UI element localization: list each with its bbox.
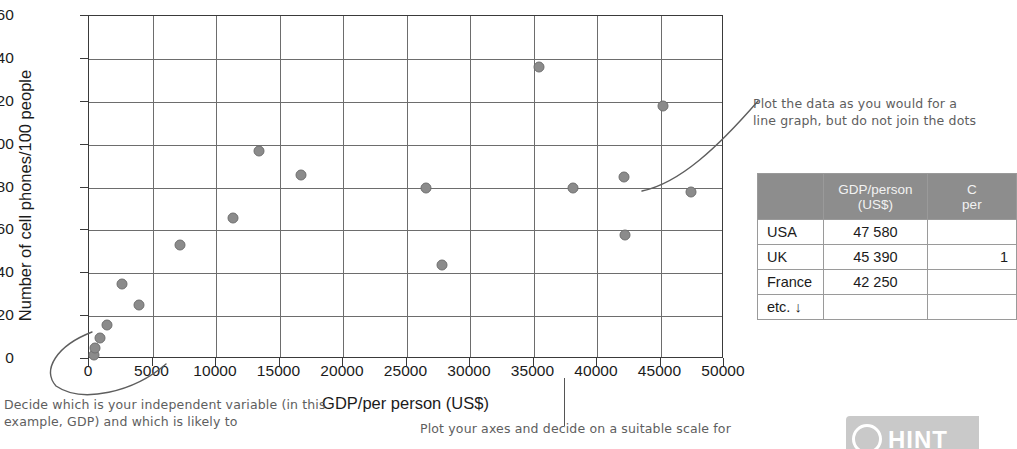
gridline-vertical [661,16,662,357]
annotation-independent-variable: Decide which is your independent variabl… [4,396,334,430]
gridline-vertical [153,16,154,357]
table-header-blank [758,174,824,220]
y-tick-label: 80 [0,179,14,195]
y-tick-label: 60 [0,222,14,238]
data-point [90,343,101,354]
table-cell-gdp: 45 390 [823,245,927,270]
x-tick-mark [469,358,470,366]
table-cell-country: etc. ↓ [758,295,824,320]
table-cell-country: France [758,270,824,295]
y-tick-label: 100 [0,136,14,152]
gridline-vertical [407,16,408,357]
y-tick-label: 20 [0,307,14,323]
table-cell-country: UK [758,245,824,270]
data-point [227,212,238,223]
y-tick-mark [80,15,88,16]
table-cell-country: USA [758,220,824,245]
gridline-vertical [343,16,344,357]
gridline-vertical [597,16,598,357]
table-header-row: GDP/person(US$) Cper [758,174,1017,220]
x-tick-mark [215,358,216,366]
x-tick-mark [723,358,724,366]
data-point [685,186,696,197]
vertical-divider-rule [564,378,565,426]
gridline-vertical [216,16,217,357]
data-point [296,169,307,180]
gridline-horizontal [89,59,722,60]
x-tick-mark [533,358,534,366]
table-cell-cellphones: 1 [927,245,1016,270]
gridline-vertical [470,16,471,357]
gridline-vertical [280,16,281,357]
data-point [133,300,144,311]
annotation-suitable-scale: Plot your axes and decide on a suitable … [420,420,880,437]
data-point [533,62,544,73]
data-point [437,259,448,270]
y-tick-mark [80,101,88,102]
data-point [618,171,629,182]
data-point [101,319,112,330]
hint-circle-icon [852,424,882,449]
y-tick-mark [80,358,88,359]
hint-badge: HINT [846,416,979,449]
annotation-plot-dots: Plot the data as you would for a line gr… [753,95,979,129]
data-point [175,240,186,251]
y-tick-mark [80,315,88,316]
table-row: UK45 3901 [758,245,1017,270]
x-tick-mark [342,358,343,366]
data-point [567,182,578,193]
x-tick-mark [88,358,89,366]
table-row: USA47 580 [758,220,1017,245]
x-tick-mark [279,358,280,366]
scatter-chart-figure: Number of cell phones/100 people GDP/per… [0,0,745,449]
table-cell-gdp: 47 580 [823,220,927,245]
data-point [420,182,431,193]
gridline-horizontal [89,273,722,274]
table-header: GDP/person(US$) Cper [758,174,1017,220]
y-axis-title: Number of cell phones/100 people [16,31,35,361]
data-point [619,229,630,240]
y-tick-mark [80,144,88,145]
data-point [117,278,128,289]
table-cell-cellphones [927,295,1016,320]
x-tick-mark [660,358,661,366]
table-row: etc. ↓ [758,295,1017,320]
table-cell-gdp: 42 250 [823,270,927,295]
y-tick-mark [80,272,88,273]
y-tick-label: 0 [0,350,14,366]
y-tick-label: 120 [0,93,14,109]
table-cell-cellphones [927,220,1016,245]
y-tick-mark [80,187,88,188]
country-gdp-table: GDP/person(US$) Cper USA47 580UK45 3901F… [757,173,1017,320]
hint-label: HINT [888,426,948,449]
gridline-horizontal [89,102,722,103]
gridline-horizontal [89,145,722,146]
y-tick-label: 140 [0,50,14,66]
x-tick-mark [406,358,407,366]
y-tick-label: 40 [0,265,14,281]
y-tick-label: 160 [0,7,14,23]
table-header-cellphones: Cper [927,174,1016,220]
x-tick-mark [596,358,597,366]
table-row: France42 250 [758,270,1017,295]
gridline-horizontal [89,188,722,189]
data-point [254,146,265,157]
y-tick-mark [80,229,88,230]
x-tick-mark [152,358,153,366]
table-header-gdp: GDP/person(US$) [823,174,927,220]
y-tick-mark [80,58,88,59]
gridline-horizontal [89,316,722,317]
data-point [658,101,669,112]
data-point [95,332,106,343]
table-cell-gdp [823,295,927,320]
plot-area [88,15,723,358]
table-cell-cellphones [927,270,1016,295]
table-body: USA47 580UK45 3901France42 250etc. ↓ [758,220,1017,320]
